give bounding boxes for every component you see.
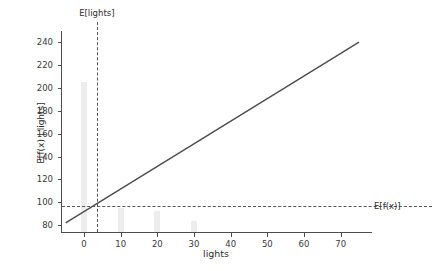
y-axis-tick-label: 80 bbox=[42, 220, 53, 230]
x-axis-tick bbox=[267, 233, 268, 237]
x-axis-tick bbox=[341, 233, 342, 237]
plot-area bbox=[62, 33, 370, 232]
expected-prediction-label: E[f(x)] bbox=[374, 201, 401, 211]
x-axis-tick-label: 20 bbox=[152, 239, 163, 249]
x-axis: 010203040506070 bbox=[0, 233, 400, 271]
x-axis-tick-label: 50 bbox=[262, 239, 273, 249]
x-axis-tick bbox=[157, 233, 158, 237]
x-axis-tick bbox=[194, 233, 195, 237]
x-axis-tick-label: 60 bbox=[299, 239, 310, 249]
y-axis-tick-label: 220 bbox=[37, 60, 53, 70]
x-axis-tick bbox=[84, 233, 85, 237]
x-axis-tick bbox=[121, 233, 122, 237]
x-axis-tick bbox=[304, 233, 305, 237]
expected-lights-vline bbox=[97, 22, 98, 232]
x-axis-tick-label: 0 bbox=[81, 239, 86, 249]
y-axis-tick-label: 240 bbox=[37, 37, 53, 47]
x-axis-tick bbox=[231, 233, 232, 237]
y-axis-tick-label: 100 bbox=[37, 197, 53, 207]
x-axis-tick-label: 30 bbox=[189, 239, 200, 249]
y-axis-tick-label: 180 bbox=[37, 106, 53, 116]
y-axis: 80100120140160180200220240 bbox=[0, 0, 62, 271]
y-axis-tick-label: 160 bbox=[37, 129, 53, 139]
trend-line bbox=[62, 33, 370, 232]
x-axis-tick-label: 10 bbox=[115, 239, 126, 249]
y-axis-tick-label: 120 bbox=[37, 174, 53, 184]
y-axis-tick-label: 200 bbox=[37, 83, 53, 93]
y-axis-tick-label: 140 bbox=[37, 152, 53, 162]
expected-lights-label: E[lights] bbox=[79, 8, 114, 18]
x-axis-tick-label: 70 bbox=[335, 239, 346, 249]
x-axis-title: lights bbox=[203, 248, 229, 259]
